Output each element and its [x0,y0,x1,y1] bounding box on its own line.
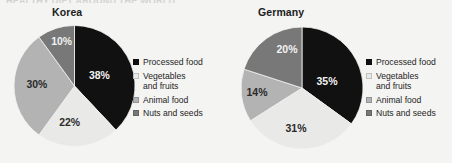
legend-item[interactable]: Animal food [366,95,436,105]
legend-item-label: Processed food [143,57,203,67]
legend-item-label: Nuts and seeds [143,108,203,118]
pie-svg-korea: 38% 22% 30% 10% [13,24,136,148]
legend-korea: Processed foodVegetablesand fruitsAnimal… [133,57,203,122]
legend-item[interactable]: Nuts and seeds [366,108,436,118]
pie-svg-germany: 35% 31% 14% 20% [240,26,364,150]
legend-germany: Processed foodVegetablesand fruitsAnimal… [366,57,436,122]
legend-item-label: Animal food [376,95,421,105]
slice-label-vegetables-and-fruits: 22% [59,117,80,128]
swatch-processed-food [133,59,139,65]
slice-label-nuts-and-seeds: 10% [51,36,72,47]
legend-item-label: Vegetablesand fruits [143,71,186,92]
swatch-animal-food [133,97,139,103]
legend-item-label: Vegetablesand fruits [376,71,419,92]
pie-chart-korea: 38% 22% 30% 10% [13,24,136,148]
legend-item[interactable]: Vegetablesand fruits [366,71,436,92]
legend-item-label: Animal food [143,95,188,105]
slice-label-processed-food: 35% [316,75,338,87]
legend-item-label-line2: and fruits [376,81,419,91]
swatch-processed-food [366,59,372,65]
chart-panel-korea: Korea 38% 22% 30% 10% Processed foodVege… [0,0,226,163]
legend-item[interactable]: Vegetablesand fruits [133,71,203,92]
legend-item[interactable]: Nuts and seeds [133,108,203,118]
slice-label-animal-food: 14% [246,86,268,98]
chart-panel-germany: Germany 35% 31% 14% 20% Processed foodVe… [226,0,452,163]
swatch-vegetables-and-fruits [133,73,139,79]
pie-chart-germany: 35% 31% 14% 20% [240,26,364,150]
legend-item[interactable]: Processed food [366,57,436,67]
legend-item[interactable]: Processed food [133,57,203,67]
slice-label-animal-food: 30% [26,79,47,90]
pie-chart-figure: HEALTHY DIET AROUND THE WORLD Korea 38% … [0,0,452,163]
legend-item-label: Processed food [376,57,436,67]
swatch-nuts-and-seeds [366,110,372,116]
legend-item[interactable]: Animal food [133,95,203,105]
slice-label-processed-food: 38% [89,70,110,81]
legend-item-label: Nuts and seeds [376,108,436,118]
slice-label-vegetables-and-fruits: 31% [285,122,307,134]
chart-title-korea: Korea [52,6,82,18]
swatch-animal-food [366,97,372,103]
slice-label-nuts-and-seeds: 20% [276,43,298,55]
swatch-nuts-and-seeds [133,110,139,116]
swatch-vegetables-and-fruits [366,73,372,79]
chart-title-germany: Germany [258,6,304,18]
legend-item-label-line2: and fruits [143,81,186,91]
